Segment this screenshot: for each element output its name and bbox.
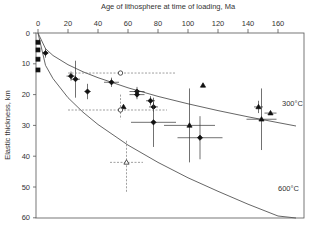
y-tick-label: 50: [22, 183, 30, 192]
data-point: [256, 104, 261, 108]
y-tick-label: 30: [22, 121, 30, 130]
y-tick-label: 20: [22, 90, 30, 99]
data-point: [109, 80, 114, 85]
data-point: [148, 98, 153, 103]
x-tick-label: 80: [154, 19, 162, 28]
curve-label-600: 600°C: [278, 184, 300, 193]
y-tick-label: 40: [22, 152, 30, 161]
data-point: [73, 77, 78, 82]
curve-label-300: 300°C: [282, 99, 304, 108]
x-axis-label: Age of lithosphere at time of loading, M…: [101, 2, 236, 11]
data-point: [36, 57, 40, 61]
data-points: [36, 40, 277, 193]
data-point: [36, 48, 40, 52]
data-point: [187, 123, 192, 127]
x-tick-label: 0: [36, 19, 40, 28]
y-tick-label: 0: [26, 29, 30, 38]
chart: Age of lithosphere at time of loading, M…: [0, 0, 312, 229]
data-point: [200, 83, 205, 87]
x-tick-label: 40: [94, 19, 102, 28]
data-point: [124, 160, 129, 164]
y-tick-label: 10: [22, 59, 30, 68]
data-point: [197, 135, 202, 140]
data-point: [268, 110, 273, 114]
x-tick-label: 100: [182, 19, 195, 28]
y-axis-label: Elastic thickness, km: [3, 90, 12, 160]
x-ticks: 020406080100120140160: [36, 19, 284, 33]
data-point: [151, 120, 156, 125]
y-tick-label: 60: [22, 213, 30, 222]
x-tick-label: 20: [64, 19, 72, 28]
data-point: [36, 68, 40, 72]
x-tick-label: 160: [272, 19, 285, 28]
data-point: [68, 74, 73, 79]
y-ticks: 0102030405060: [22, 29, 36, 223]
data-point: [85, 89, 90, 94]
data-point: [118, 71, 122, 75]
data-point: [36, 40, 40, 44]
data-point: [118, 108, 122, 112]
data-point: [43, 50, 48, 55]
x-tick-label: 140: [242, 19, 255, 28]
x-tick-label: 120: [212, 19, 225, 28]
x-tick-label: 60: [124, 19, 132, 28]
